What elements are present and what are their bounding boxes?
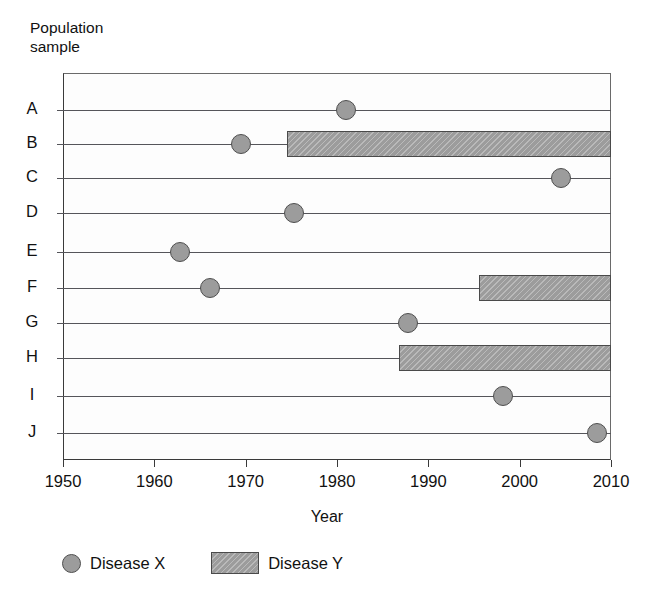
y-axis-title: Population sample [30,18,103,56]
y-tick-mark-f [57,288,63,289]
hatched-bar-marker-icon [211,552,259,574]
y-tick-mark-h [57,358,63,359]
disease-x-dot-d [284,203,304,223]
y-tick-label-g: G [15,312,49,331]
legend-label-disease-y: Disease Y [268,554,343,573]
y-tick-label-a: A [15,99,49,118]
legend-item-disease-y: Disease Y [211,552,343,574]
y-tick-mark-i [57,396,63,397]
x-tick-label-1950: 1950 [31,472,95,491]
y-tick-label-e: E [15,241,49,260]
y-tick-mark-g [57,323,63,324]
disease-y-bar-b [287,131,611,157]
x-tick-mark-2010 [611,460,612,467]
y-tick-mark-d [57,213,63,214]
x-tick-mark-1990 [428,460,429,467]
x-tick-mark-1950 [63,460,64,467]
disease-y-bar-h [399,345,611,371]
row-baseline-c [63,178,611,179]
legend-item-disease-x: Disease X [62,554,165,573]
disease-x-dot-a [336,100,356,120]
x-tick-mark-1960 [154,460,155,467]
row-baseline-j [63,433,611,434]
x-tick-label-2010: 2010 [579,472,643,491]
row-baseline-i [63,396,611,397]
disease-x-dot-f [200,278,220,298]
x-tick-label-2000: 2000 [488,472,552,491]
y-tick-label-f: F [15,277,49,296]
disease-x-dot-b [231,134,251,154]
disease-y-bar-f [479,275,611,301]
row-baseline-d [63,213,611,214]
legend-label-disease-x: Disease X [90,554,165,573]
y-tick-label-d: D [15,202,49,221]
x-tick-label-1960: 1960 [122,472,186,491]
y-tick-mark-j [57,433,63,434]
x-tick-label-1970: 1970 [214,472,278,491]
disease-x-dot-e [170,242,190,262]
y-tick-mark-e [57,252,63,253]
row-baseline-g [63,323,611,324]
y-tick-label-j: J [15,422,49,441]
y-tick-mark-b [57,144,63,145]
x-tick-mark-1970 [246,460,247,467]
y-tick-label-i: I [15,385,49,404]
chart-legend: Disease X Disease Y [62,552,343,574]
y-tick-mark-a [57,110,63,111]
x-axis-title: Year [0,508,654,526]
circle-marker-icon [62,554,81,573]
x-tick-mark-2000 [520,460,521,467]
x-tick-mark-1980 [337,460,338,467]
row-baseline-e [63,252,611,253]
disease-x-dot-c [551,168,571,188]
y-tick-label-b: B [15,133,49,152]
y-tick-mark-c [57,178,63,179]
y-tick-label-c: C [15,167,49,186]
x-tick-label-1980: 1980 [305,472,369,491]
y-tick-label-h: H [15,347,49,366]
x-tick-label-1990: 1990 [396,472,460,491]
